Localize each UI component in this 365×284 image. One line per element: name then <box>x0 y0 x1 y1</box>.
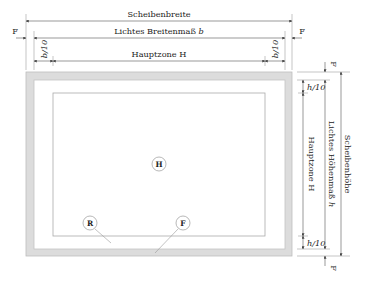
clear-height-label: Lichtes Höhenmaß h <box>327 121 337 207</box>
top-margin-label: h/10 <box>307 82 325 92</box>
top-dimensions: Scheibenbreite Lichtes Breitenmaß b Haup… <box>12 9 305 70</box>
svg-text:F: F <box>180 219 186 228</box>
svg-text:H: H <box>155 160 162 169</box>
right-dimensions: Hauptzone H h/10 h/10 Lichtes Höhenmaß h… <box>297 61 353 271</box>
left-margin-label: b/10 <box>39 40 49 58</box>
left-frame-label: F <box>12 26 18 36</box>
right-frame-label: F <box>299 26 305 36</box>
bottom-margin-label: h/10 <box>307 238 325 248</box>
right-margin-label: b/10 <box>270 40 280 58</box>
bottom-frame-label: F <box>329 265 339 271</box>
clear-width-label: Lichtes Breitenmaß b <box>114 26 204 36</box>
main-zone-width-label: Hauptzone H <box>132 49 187 59</box>
overall-width-label: Scheibenbreite <box>127 9 190 19</box>
windshield-zone-diagram: Scheibenbreite Lichtes Breitenmaß b Haup… <box>0 0 365 284</box>
svg-text:R: R <box>87 219 94 228</box>
zone-marker-main: H <box>152 157 166 171</box>
overall-height-label: Scheibenhöhe <box>343 135 353 194</box>
top-frame-label: F <box>329 61 339 67</box>
main-zone-height-label: Hauptzone H <box>307 137 317 192</box>
